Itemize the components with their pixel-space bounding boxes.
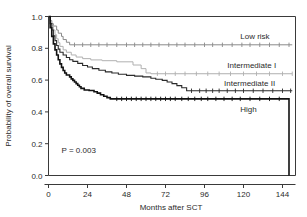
x-axis-title: Months after SCT xyxy=(140,203,203,212)
y-tick-label: 0.2 xyxy=(31,140,43,149)
y-tick-label: 0.0 xyxy=(31,172,43,181)
x-tick-label: 72 xyxy=(161,190,170,199)
x-tick-label: 144 xyxy=(276,190,290,199)
chart-annotations: P = 0.003 xyxy=(62,146,97,155)
x-tick-label: 48 xyxy=(122,190,131,199)
series-label-low-risk: Low risk xyxy=(240,32,270,41)
series-label-intermediate-ii: Intermediate II xyxy=(224,79,275,88)
kaplan-meier-plot: 0.00.20.40.60.81.0 024487296120144 Low r… xyxy=(0,0,307,217)
x-tick-label: 96 xyxy=(200,190,209,199)
series-label-high: High xyxy=(240,105,256,114)
series-label-intermediate-i: Intermediate I xyxy=(227,61,276,70)
y-axis-title: Probability of overall survival xyxy=(4,45,13,147)
x-axis-ticks: 024487296120144 xyxy=(45,185,296,199)
y-axis-ticks: 0.00.20.40.60.81.0 xyxy=(31,13,48,181)
y-tick-label: 1.0 xyxy=(31,13,43,22)
x-tick-label: 120 xyxy=(237,190,251,199)
y-tick-label: 0.6 xyxy=(31,76,43,85)
y-tick-label: 0.4 xyxy=(31,108,43,117)
p-value: P = 0.003 xyxy=(62,146,97,155)
survival-chart: 0.00.20.40.60.81.0 024487296120144 Low r… xyxy=(0,0,307,217)
x-tick-label: 0 xyxy=(46,190,51,199)
x-tick-label: 24 xyxy=(83,190,92,199)
y-tick-label: 0.8 xyxy=(31,44,43,53)
